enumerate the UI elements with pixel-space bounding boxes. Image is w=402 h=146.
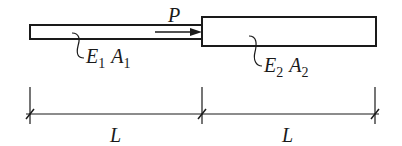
segment-2-bar — [202, 17, 376, 46]
segment-1-leader — [72, 33, 84, 58]
segment-2-leader — [249, 36, 262, 66]
segment-1-label: E1A1 — [85, 45, 130, 71]
load-arrow-icon — [155, 28, 202, 36]
length-label-1: L — [109, 124, 121, 146]
dimension-line — [26, 87, 379, 124]
stepped-bar-diagram: P E1A1 E2A2 L L — [0, 0, 402, 146]
diagram-svg: P E1A1 E2A2 L L — [0, 0, 402, 146]
segment-2-label: E2A2 — [263, 54, 308, 80]
length-label-2: L — [281, 124, 293, 146]
load-label: P — [167, 4, 180, 26]
